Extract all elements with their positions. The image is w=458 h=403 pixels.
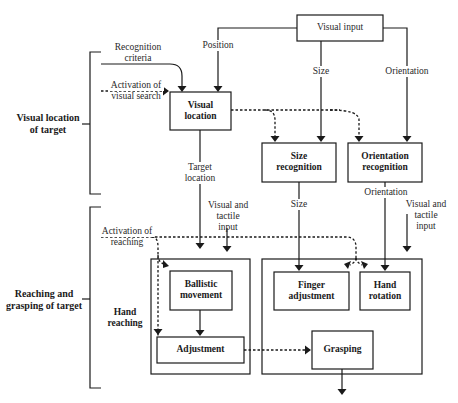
- grasping-label: Grasping: [312, 344, 373, 355]
- size-recognition-label: Size recognition: [262, 151, 336, 173]
- finger-adjustment-label: Finger adjustment: [274, 280, 349, 302]
- bracket-visual-location: [82, 52, 101, 194]
- arrowhead-icon: [317, 136, 326, 142]
- hand-rotation-label: Hand rotation: [360, 280, 410, 302]
- orientation-recognition-label: Orientation recognition: [348, 151, 422, 173]
- arrowhead-icon: [163, 260, 169, 268]
- arrowhead-icon: [154, 329, 163, 335]
- arrowhead-icon: [295, 265, 304, 271]
- arrowhead-icon: [403, 136, 412, 142]
- arrowhead-icon: [196, 330, 205, 336]
- edge-orientation-top: [383, 28, 407, 137]
- arrowhead-icon: [223, 246, 232, 252]
- edge-label-visual-tactile-right: Visual and tactile input: [404, 199, 448, 232]
- section-label-visual-location: Visual location of target: [16, 112, 80, 136]
- arrowhead-icon: [338, 389, 347, 395]
- edge-label-orientation-bottom: Orientation: [363, 187, 409, 198]
- edge-label-recognition-criteria: Recognition criteria: [113, 42, 163, 64]
- arrowhead-icon: [361, 261, 368, 269]
- arrowhead-icon: [214, 86, 223, 92]
- adjustment-label: Adjustment: [157, 344, 244, 355]
- hand-reaching-group-label: Hand reaching: [102, 307, 148, 329]
- section-label-reaching-grasping: Reaching and grasping of target: [6, 288, 82, 312]
- arrowhead-icon: [381, 265, 390, 271]
- edge-label-position: Position: [198, 40, 238, 51]
- arrowhead-icon: [271, 136, 280, 142]
- edge-label-size-top: Size: [309, 66, 333, 77]
- edge-label-activation-visual-search: Activation of visual search: [108, 80, 164, 102]
- edge-position: [218, 28, 297, 88]
- arrowhead-icon: [196, 243, 205, 249]
- arrowhead-icon: [178, 86, 187, 92]
- edge-label-target-location: Target location: [182, 162, 218, 184]
- arrowhead-icon: [403, 246, 412, 252]
- edge-label-activation-reaching: Activation of reaching: [100, 226, 154, 248]
- bracket-reaching-grasping: [82, 207, 101, 388]
- arrowhead-icon: [355, 136, 364, 142]
- arrowhead-icon: [305, 346, 311, 355]
- visual-location-label: Visual location: [170, 100, 231, 122]
- edge-label-size-bottom: Size: [287, 199, 311, 210]
- edge-label-visual-tactile-left: Visual and tactile input: [208, 200, 248, 233]
- ballistic-movement-label: Ballistic movement: [170, 279, 232, 301]
- arrowhead-icon: [344, 261, 351, 269]
- edge-label-orientation-top: Orientation: [383, 66, 431, 77]
- visual-input-label: Visual input: [297, 22, 383, 33]
